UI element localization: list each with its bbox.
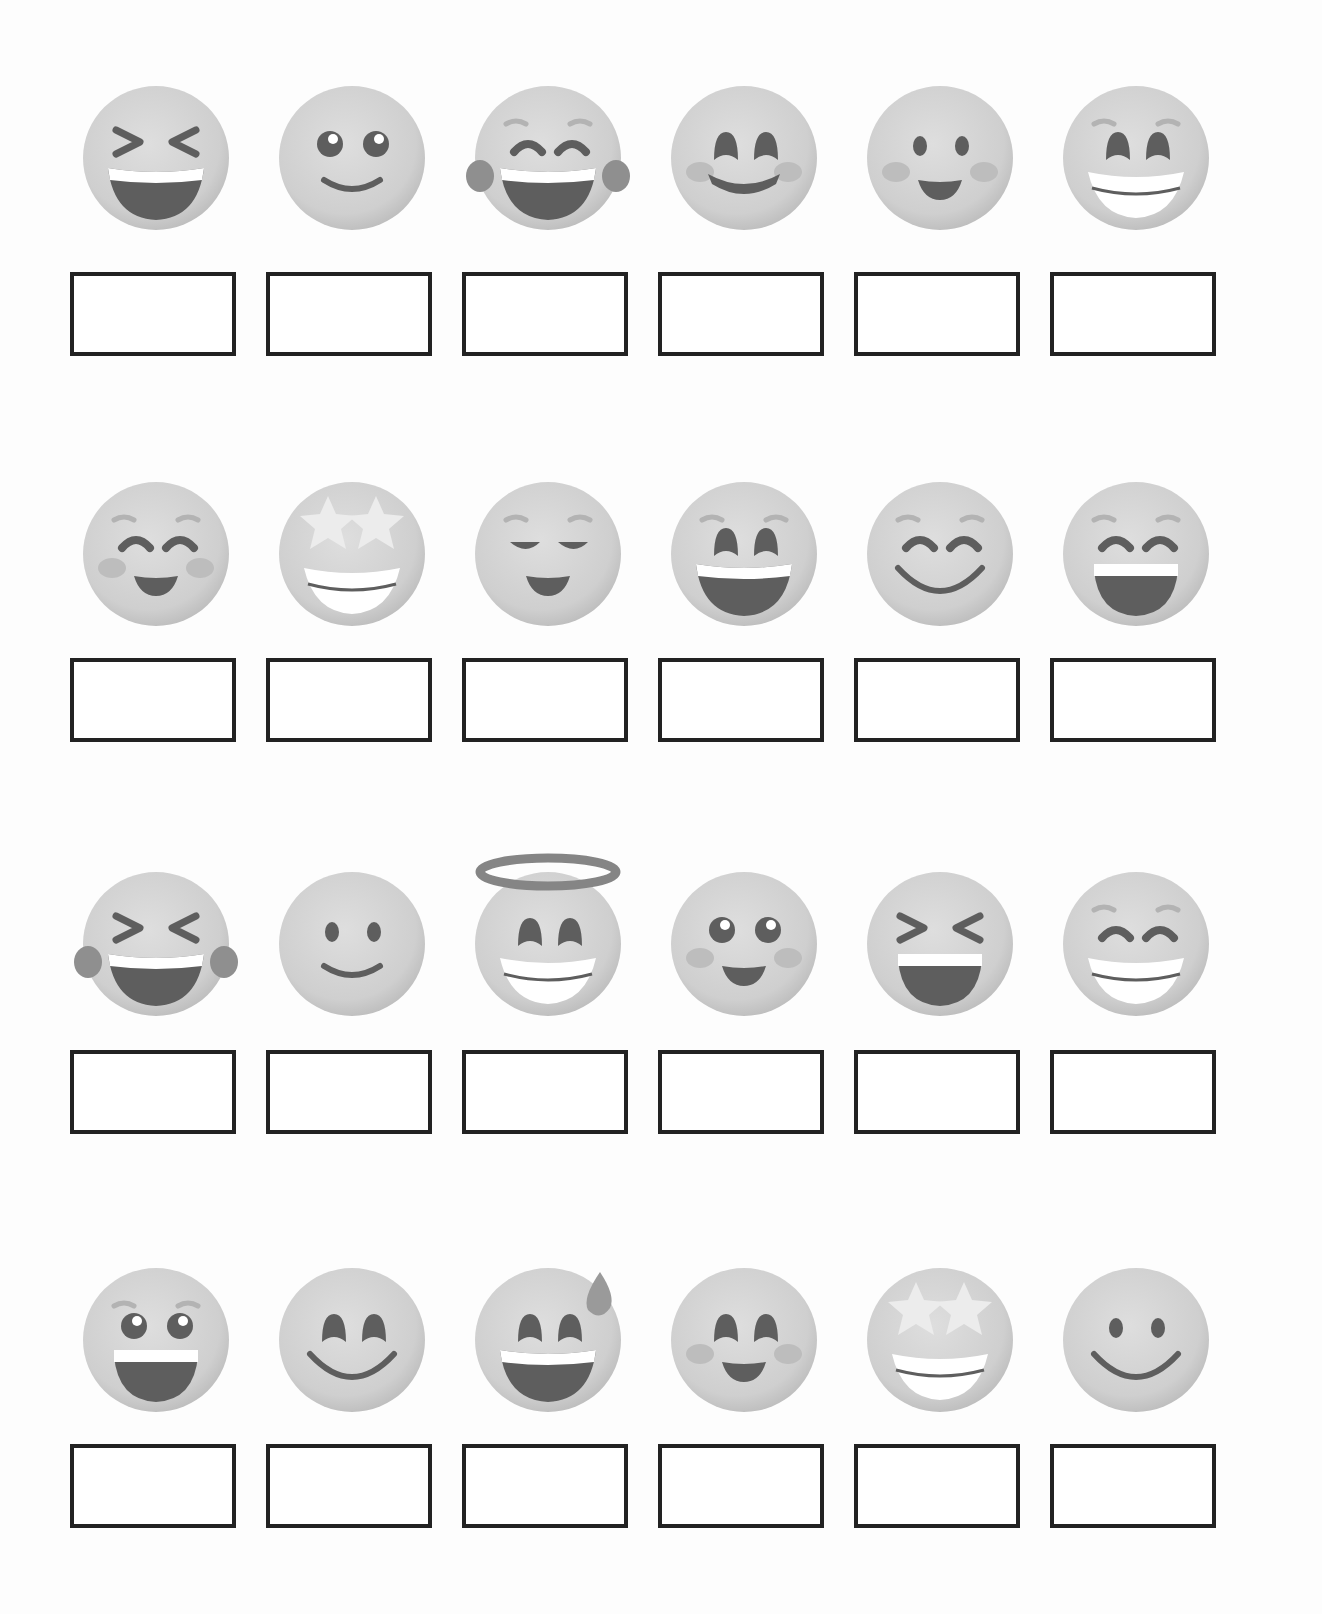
smiling-face-big-eyes-blush-icon bbox=[666, 866, 822, 1022]
worksheet-cell bbox=[854, 80, 1024, 370]
worksheet-cell bbox=[266, 866, 436, 1156]
worksheet-cell bbox=[70, 866, 240, 1156]
answer-box[interactable] bbox=[266, 272, 432, 356]
worksheet-cell bbox=[462, 866, 632, 1156]
grinning-smiling-eyes-icon bbox=[666, 476, 822, 632]
worksheet-cell bbox=[462, 1262, 632, 1552]
worksheet-cell bbox=[854, 1262, 1024, 1552]
worksheet-cell bbox=[70, 80, 240, 370]
smiling-face-with-halo-icon bbox=[470, 866, 626, 1022]
worksheet-cell bbox=[266, 80, 436, 370]
star-struck-face-icon bbox=[862, 1262, 1018, 1418]
smiling-eyes-wide-smile-icon bbox=[274, 1262, 430, 1418]
grinning-face-big-eyes-icon bbox=[78, 1262, 234, 1418]
worksheet-cell bbox=[854, 476, 1024, 766]
answer-box[interactable] bbox=[854, 1050, 1020, 1134]
smiling-face-big-eyes-icon bbox=[274, 80, 430, 236]
face-with-tears-of-joy-icon bbox=[470, 80, 626, 236]
answer-box[interactable] bbox=[658, 658, 824, 742]
worksheet-cell bbox=[266, 476, 436, 766]
star-struck-face-icon bbox=[274, 476, 430, 632]
answer-box[interactable] bbox=[658, 1444, 824, 1528]
answer-box[interactable] bbox=[1050, 1444, 1216, 1528]
answer-box[interactable] bbox=[462, 658, 628, 742]
answer-box[interactable] bbox=[266, 1444, 432, 1528]
answer-box[interactable] bbox=[70, 1050, 236, 1134]
worksheet-cell bbox=[658, 1262, 828, 1552]
answer-box[interactable] bbox=[1050, 658, 1216, 742]
happy-closed-eyes-wide-smile-icon bbox=[862, 476, 1018, 632]
worksheet-cell bbox=[658, 476, 828, 766]
answer-box[interactable] bbox=[854, 272, 1020, 356]
worksheet-cell bbox=[70, 476, 240, 766]
worksheet-cell bbox=[1050, 866, 1220, 1156]
answer-box[interactable] bbox=[658, 272, 824, 356]
worksheet-cell bbox=[1050, 476, 1220, 766]
grinning-squinting-open-mouth-icon bbox=[862, 866, 1018, 1022]
emoji-worksheet bbox=[0, 0, 1322, 1614]
answer-box[interactable] bbox=[1050, 272, 1216, 356]
slightly-smiling-blush-face-icon bbox=[862, 80, 1018, 236]
answer-box[interactable] bbox=[854, 1444, 1020, 1528]
grinning-squinting-face-icon bbox=[78, 80, 234, 236]
grinning-face-with-sweat-icon bbox=[470, 1262, 626, 1418]
answer-box[interactable] bbox=[70, 272, 236, 356]
worksheet-cell bbox=[462, 80, 632, 370]
worksheet-cell bbox=[658, 80, 828, 370]
answer-box[interactable] bbox=[462, 272, 628, 356]
beaming-face-icon bbox=[1058, 80, 1214, 236]
beaming-face-closed-eyes-icon bbox=[1058, 866, 1214, 1022]
smiling-face-smiling-eyes-icon bbox=[666, 80, 822, 236]
answer-box[interactable] bbox=[658, 1050, 824, 1134]
slightly-smiling-face-icon bbox=[274, 866, 430, 1022]
worksheet-cell bbox=[70, 1262, 240, 1552]
answer-box[interactable] bbox=[70, 658, 236, 742]
worksheet-cell bbox=[266, 1262, 436, 1552]
smiling-face-closed-eyes-icon bbox=[78, 476, 234, 632]
worksheet-cell bbox=[1050, 80, 1220, 370]
grinning-face-smiling-eyes-open-mouth-icon bbox=[1058, 476, 1214, 632]
answer-box[interactable] bbox=[462, 1050, 628, 1134]
worksheet-cell bbox=[462, 476, 632, 766]
smiling-face-icon bbox=[1058, 1262, 1214, 1418]
answer-box[interactable] bbox=[266, 658, 432, 742]
worksheet-cell bbox=[658, 866, 828, 1156]
answer-box[interactable] bbox=[266, 1050, 432, 1134]
answer-box[interactable] bbox=[1050, 1050, 1216, 1134]
answer-box[interactable] bbox=[462, 1444, 628, 1528]
relieved-face-icon bbox=[470, 476, 626, 632]
rolling-laughing-tears-icon bbox=[78, 866, 234, 1022]
worksheet-cell bbox=[854, 866, 1024, 1156]
answer-box[interactable] bbox=[70, 1444, 236, 1528]
worksheet-cell bbox=[1050, 1262, 1220, 1552]
smiling-face-smiling-eyes-blush-icon bbox=[666, 1262, 822, 1418]
answer-box[interactable] bbox=[854, 658, 1020, 742]
